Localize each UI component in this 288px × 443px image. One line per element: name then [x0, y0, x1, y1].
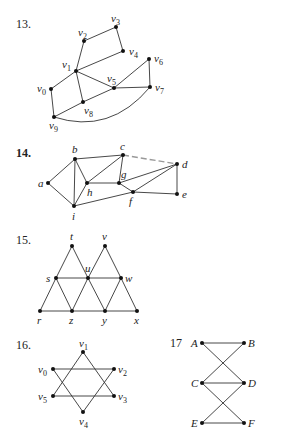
vertex-v3	[112, 394, 116, 398]
vertex-label-v1: v1	[79, 337, 88, 352]
edge-v1-v5	[53, 352, 83, 396]
vertex-label-f: f	[129, 195, 134, 207]
vertex-label-F: F	[247, 417, 255, 429]
vertex-label-v9: v9	[49, 119, 58, 134]
vertex-label-C: C	[191, 377, 199, 389]
vertex-label-t: t	[70, 230, 74, 242]
edge-h-i	[74, 183, 87, 206]
vertex-label-v3: v3	[118, 390, 127, 405]
edge-v1-v8	[76, 71, 83, 102]
edge-v5-v7	[114, 87, 150, 88]
edge-t-s	[56, 246, 72, 278]
vertex-v2	[112, 367, 116, 371]
vertex-label-v6: v6	[154, 52, 163, 67]
vertex-label-w: w	[125, 272, 133, 284]
edge-b-i	[74, 159, 75, 206]
vertex-label-d: d	[182, 158, 188, 170]
graph-17: ABCDEF17	[170, 336, 256, 429]
vertex-label-E: E	[190, 417, 198, 429]
edge-s-z	[56, 278, 72, 311]
graph-exercises-figure: v0v1v2v3v4v5v6v7v8v913. abcdefghi14. tvs…	[0, 0, 288, 443]
edge-h-c	[87, 155, 123, 183]
edge-v-w	[105, 246, 121, 278]
graph-13: v0v1v2v3v4v5v6v7v8v913.	[16, 12, 164, 134]
vertex-v0	[49, 87, 53, 91]
vertex-u	[86, 276, 90, 280]
vertex-label-v7: v7	[155, 81, 164, 96]
vertex-d	[175, 162, 179, 166]
vertex-label-v8: v8	[84, 104, 93, 119]
edge-v-u	[88, 246, 105, 278]
vertex-i	[72, 204, 76, 208]
graph-14: abcdefghi14.	[16, 140, 188, 222]
vertex-label-B: B	[248, 337, 255, 349]
vertex-C	[200, 381, 204, 385]
edge-f-d	[133, 164, 177, 192]
vertex-v5	[51, 394, 55, 398]
vertex-label-r: r	[37, 314, 42, 326]
edge-u-y	[88, 278, 105, 311]
vertex-label-v4: v4	[79, 415, 88, 430]
vertex-label-v3: v3	[111, 12, 120, 27]
vertex-label-z: z	[68, 314, 74, 326]
edge-v0-v4	[53, 369, 83, 412]
edge-v9-v8	[54, 102, 83, 117]
vertex-label-s: s	[46, 272, 50, 284]
edge-v9-v7-curved	[54, 87, 150, 122]
vertex-B	[242, 341, 246, 345]
vertex-r	[38, 309, 42, 313]
exercise-number: 17	[170, 336, 182, 350]
vertex-label-e: e	[182, 188, 187, 200]
edge-v2-v4	[83, 369, 114, 412]
edge-v3-v4	[116, 27, 123, 51]
vertex-a	[46, 181, 50, 185]
vertex-z	[70, 309, 74, 313]
edge-f-e	[133, 192, 177, 194]
edge-v0-v9	[51, 89, 54, 117]
vertex-v4	[81, 410, 85, 414]
vertex-h	[85, 181, 89, 185]
vertex-b	[73, 157, 77, 161]
edge-g-f	[119, 183, 133, 192]
edge-v6-v7	[149, 59, 150, 87]
edge-v5-v6	[114, 59, 149, 88]
exercise-number: 15.	[16, 233, 31, 247]
graph-15: tvsuwrzyx15.	[16, 230, 139, 326]
edge-c-d	[123, 155, 177, 164]
edge-i-f	[74, 192, 133, 206]
graph-16: v1v0v2v5v3v416.	[16, 337, 127, 430]
edge-v8-v5	[83, 88, 114, 102]
vertex-label-v: v	[102, 230, 107, 242]
vertex-label-h: h	[87, 186, 93, 198]
vertex-E	[200, 421, 204, 425]
edge-v1-v0	[51, 71, 76, 89]
vertex-label-v5: v5	[107, 72, 116, 87]
vertex-t	[70, 244, 74, 248]
vertex-label-A: A	[190, 337, 198, 349]
vertex-e	[175, 192, 179, 196]
exercise-number: 13.	[16, 17, 31, 31]
edge-b-c	[75, 155, 123, 159]
vertex-label-c: c	[120, 140, 125, 152]
vertex-v1	[74, 69, 78, 73]
vertex-label-y: y	[101, 314, 107, 326]
vertex-g	[117, 181, 121, 185]
vertex-D	[242, 381, 246, 385]
vertex-A	[200, 341, 204, 345]
edge-b-h	[75, 159, 87, 183]
vertex-label-g: g	[121, 168, 127, 180]
vertex-c	[121, 153, 125, 157]
vertex-label-v2: v2	[118, 363, 127, 378]
edge-v1-v4	[76, 51, 123, 71]
vertex-v	[103, 244, 107, 248]
vertex-label-v0: v0	[38, 363, 47, 378]
edge-v1-v3	[83, 352, 114, 396]
edge-g-d	[119, 164, 177, 183]
vertex-label-i: i	[72, 210, 75, 222]
vertex-v7	[148, 85, 152, 89]
vertex-f	[131, 190, 135, 194]
vertex-label-a: a	[38, 177, 44, 189]
edge-a-i	[48, 183, 74, 206]
vertex-label-b: b	[72, 143, 78, 155]
vertex-label-v1: v1	[62, 58, 71, 73]
